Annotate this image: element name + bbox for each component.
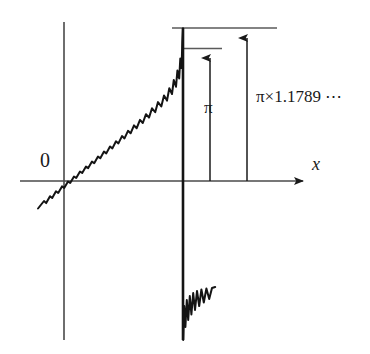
origin-label: 0 [40, 150, 50, 170]
gibbs-plot-canvas [0, 0, 370, 354]
gibbs-overshoot-label: π×1.1789 ⋯ [256, 88, 342, 105]
x-axis-label: x [312, 155, 320, 173]
pi-measure-label: π [204, 99, 213, 116]
fourier-undershoot-curve [183, 287, 215, 340]
gibbs-phenomenon-figure: 0 x π π×1.1789 ⋯ [0, 0, 370, 354]
